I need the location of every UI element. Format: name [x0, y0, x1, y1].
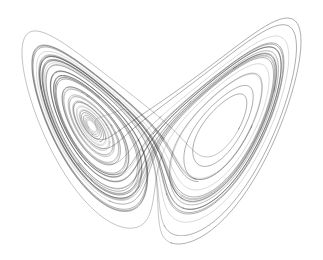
- lorenz-attractor-figure: [0, 0, 323, 260]
- attractor-plot-canvas: [0, 0, 323, 260]
- plot-background: [0, 0, 323, 260]
